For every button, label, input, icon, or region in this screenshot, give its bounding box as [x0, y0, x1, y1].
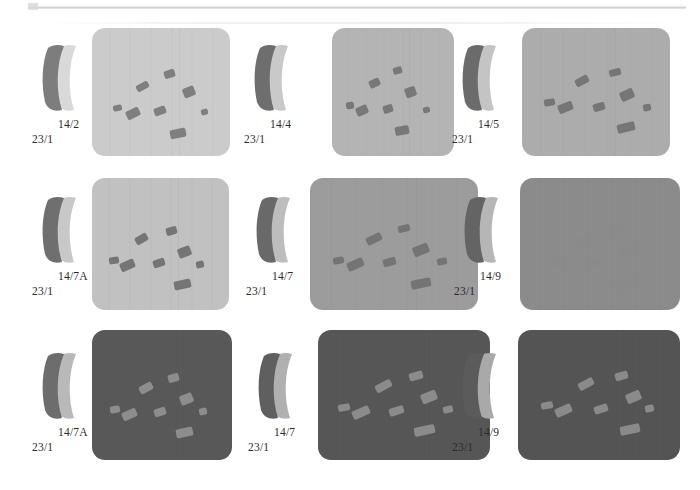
- sherd-label-top: 14/9: [478, 426, 499, 438]
- thin-section-panel: [92, 330, 232, 460]
- mineral-grain: [619, 423, 640, 436]
- thin-section-panel: [332, 28, 454, 156]
- thin-section-panel: [520, 178, 680, 310]
- panel-scan-streak: [659, 330, 661, 460]
- mineral-grain: [332, 256, 344, 265]
- panel-scan-streak: [420, 28, 422, 156]
- thin-section-panel: [92, 28, 230, 156]
- mineral-grain: [167, 373, 180, 384]
- panel-scan-streak: [406, 178, 408, 310]
- pottery-sherd-profile-icon: [448, 348, 514, 424]
- sherd-label-bottom: 23/1: [248, 441, 269, 453]
- mineral-grain: [420, 389, 439, 404]
- sherd-block: 14/723/1: [232, 192, 318, 304]
- sherd-label-bottom: 23/1: [452, 133, 473, 145]
- mineral-grain: [394, 125, 409, 136]
- sherd-block: 14/923/1: [438, 348, 524, 460]
- panel-scan-streak: [584, 28, 586, 156]
- panel-scan-streak: [339, 330, 341, 460]
- panel-scan-streak: [129, 178, 131, 310]
- panel-scan-streak: [150, 28, 152, 156]
- panel-scan-streak: [635, 178, 637, 310]
- panel-scan-streak: [330, 178, 332, 310]
- panel-scan-streak: [109, 330, 111, 460]
- panel-scan-streak: [150, 178, 152, 310]
- pottery-sherd-profile-icon: [242, 192, 308, 268]
- panel-scan-streak: [610, 330, 612, 460]
- sherd-block: 14/423/1: [230, 40, 316, 152]
- mineral-grain: [181, 85, 196, 99]
- mineral-grain: [119, 259, 136, 273]
- sherd-label-bottom: 23/1: [452, 441, 473, 453]
- panel-scan-streak: [606, 28, 608, 156]
- sherd-block: 14/923/1: [440, 192, 526, 304]
- mineral-grain: [175, 426, 193, 438]
- panel-scan-streak: [151, 330, 153, 460]
- sherd-label-top: 14/7A: [58, 426, 88, 438]
- pottery-sherd-profile-icon: [240, 40, 306, 116]
- mineral-grain: [169, 128, 186, 140]
- panel-scan-streak: [364, 330, 366, 460]
- mineral-grain: [165, 225, 178, 236]
- mineral-grain: [198, 407, 207, 416]
- mineral-grain: [397, 223, 410, 233]
- mineral-grain: [195, 261, 204, 270]
- sherd-label-group: 14/923/1: [440, 270, 526, 304]
- sherd-label-bottom: 23/1: [246, 285, 267, 297]
- pottery-sherd-profile-icon: [244, 348, 310, 424]
- mineral-grain: [408, 370, 423, 381]
- panel-scan-streak: [562, 28, 564, 156]
- mineral-grain: [382, 257, 397, 268]
- mineral-grain: [590, 258, 604, 269]
- panel-scan-streak: [381, 178, 383, 310]
- mineral-grain: [544, 98, 556, 107]
- mineral-grain: [112, 104, 122, 111]
- thin-section-panel: [522, 28, 670, 156]
- mineral-grain: [392, 66, 402, 75]
- panel-scan-streak: [562, 330, 564, 460]
- mineral-grain: [557, 100, 574, 114]
- mineral-grain: [572, 234, 589, 248]
- thin-section-panel: [518, 330, 680, 460]
- panel-scan-streak: [416, 330, 418, 460]
- panel-scan-seam: [416, 178, 417, 310]
- mineral-grain: [404, 85, 418, 98]
- mineral-grain: [645, 404, 656, 413]
- sherd-label-bottom: 23/1: [32, 285, 53, 297]
- panel-scan-streak: [383, 28, 385, 156]
- panel-scan-streak: [129, 28, 131, 156]
- mineral-grain: [153, 406, 167, 417]
- mineral-grain: [412, 242, 430, 257]
- panel-scan-streak: [109, 28, 111, 156]
- panel-scan-streak: [130, 330, 132, 460]
- mineral-grain: [201, 108, 209, 115]
- panel-scan-streak: [431, 178, 433, 310]
- mineral-grain: [135, 81, 150, 93]
- mineral-grain: [619, 88, 636, 103]
- mineral-grain: [574, 74, 590, 87]
- panel-scan-streak: [191, 178, 193, 310]
- panel-scan-streak: [586, 330, 588, 460]
- mineral-grain: [351, 405, 371, 421]
- mineral-grain: [382, 104, 394, 114]
- panel-scan-streak: [212, 28, 214, 156]
- mineral-grain: [109, 405, 120, 414]
- mineral-grain: [642, 103, 652, 111]
- panel-scan-streak: [172, 330, 174, 460]
- panel-scan-seam: [178, 178, 179, 310]
- sherd-label-top: 14/4: [270, 118, 291, 130]
- thin-section-panel: [92, 178, 229, 310]
- mineral-grain: [152, 258, 166, 269]
- panel-scan-streak: [611, 178, 613, 310]
- sherd-label-group: 14/723/1: [234, 426, 320, 460]
- sherd-label-bottom: 23/1: [32, 133, 53, 145]
- panel-scan-streak: [587, 178, 589, 310]
- mineral-grain: [614, 370, 628, 381]
- panel-scan-streak: [355, 178, 357, 310]
- pottery-sherd-profile-icon: [448, 40, 514, 116]
- panel-scan-seam: [620, 330, 621, 460]
- panel-scan-streak: [108, 178, 110, 310]
- sherd-label-group: 14/423/1: [230, 118, 316, 152]
- sherd-label-top: 14/7: [272, 270, 293, 282]
- panel-scan-streak: [193, 330, 195, 460]
